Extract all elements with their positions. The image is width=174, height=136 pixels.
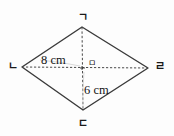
vertex-label-right: ㄹ <box>155 61 165 72</box>
measurement-label-horizontal: 8 cm <box>41 54 66 67</box>
vertex-label-top: ㄱ <box>78 12 88 23</box>
vertex-label-center: ㅁ <box>88 59 96 68</box>
vertex-label-left: ㄴ <box>8 61 18 72</box>
geometry-figure: ㄱ ㄴ ㄹ ㄷ ㅁ 8 cm 6 cm <box>0 0 174 136</box>
measurement-label-vertical: 6 cm <box>84 84 109 97</box>
vertex-label-bottom: ㄷ <box>78 118 88 129</box>
rhombus-outline <box>22 27 148 110</box>
